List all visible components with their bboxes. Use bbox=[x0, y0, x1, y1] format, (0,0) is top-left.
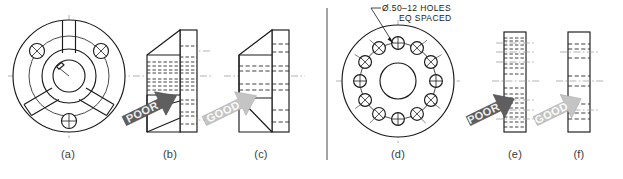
caption-c: (c) bbox=[241, 148, 281, 160]
caption-a: (a) bbox=[48, 148, 88, 160]
flange-plate-b bbox=[180, 30, 197, 132]
bolt-hole-d-12 bbox=[373, 42, 386, 55]
bolt-hole-a-3 bbox=[62, 114, 77, 129]
hub-body-b bbox=[147, 30, 180, 132]
center-bore-circle-d bbox=[380, 63, 416, 99]
view-f-bolt-circle-good-section bbox=[556, 32, 604, 132]
bolt-hole-a-2 bbox=[94, 44, 109, 59]
figure-container: .ol { fill:none; stroke:#1a1a1a; stroke-… bbox=[0, 0, 623, 179]
bolt-hole-a-1 bbox=[30, 44, 45, 59]
hole-note-line-2: EQ SPACED bbox=[399, 13, 452, 23]
flange-plate-c bbox=[272, 30, 289, 132]
bolt-hole-d-6 bbox=[411, 108, 424, 121]
poor-arrow-label-e: POOR bbox=[465, 100, 501, 126]
bolt-hole-d-3 bbox=[425, 56, 438, 69]
good-arrow-label-f: GOOD bbox=[533, 100, 570, 126]
bolt-hole-d-7 bbox=[392, 113, 405, 126]
hub-body-c bbox=[239, 30, 272, 132]
bolt-hole-d-4 bbox=[430, 75, 443, 88]
view-a-ribbed-flange-front bbox=[8, 15, 130, 138]
view-d-bolt-circle-flange-front bbox=[336, 8, 460, 143]
bolt-hole-d-1 bbox=[392, 37, 405, 50]
view-c-ribbed-flange-good-section bbox=[224, 30, 305, 132]
caption-f: (f) bbox=[559, 148, 599, 160]
caption-b: (b) bbox=[150, 148, 190, 160]
bolt-hole-d-2 bbox=[411, 42, 424, 55]
bolt-hole-d-10 bbox=[354, 75, 367, 88]
caption-d: (d) bbox=[378, 148, 418, 160]
good-arrow-label-c: GOOD bbox=[204, 98, 241, 124]
caption-e: (e) bbox=[495, 148, 535, 160]
hole-note-line-1: Ø.50–12 HOLES bbox=[382, 3, 451, 13]
bolt-hole-d-11 bbox=[359, 56, 372, 69]
bolt-hole-d-5 bbox=[425, 94, 438, 107]
